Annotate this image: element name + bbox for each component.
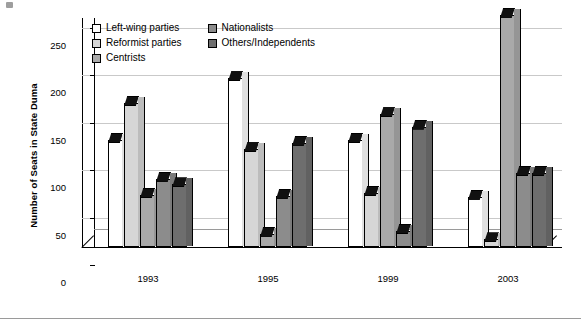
bar-top-face <box>380 107 395 117</box>
bar-top-face <box>468 190 483 200</box>
legend-item-reformist-parties: Reformist parties <box>92 37 182 49</box>
corner-artifact <box>6 2 13 8</box>
legend-label-nationalists: Nationalists <box>222 22 274 34</box>
bar-top-face <box>412 120 427 130</box>
legend-label-reformist-parties: Reformist parties <box>106 37 182 49</box>
bar-side-face <box>186 178 193 246</box>
legend-swatch-reformist-parties <box>92 39 101 48</box>
y-tick-label-0: 0 <box>36 277 66 288</box>
bar-1995-others-independents <box>292 143 307 247</box>
chart-figure: Number of Seats in State Duma 0501001502… <box>0 0 581 325</box>
bar-top-face <box>348 133 363 143</box>
y-tick-mark-50 <box>90 218 95 219</box>
bar-1999-nationalists <box>396 231 411 247</box>
bar-top-face <box>228 71 243 81</box>
bar-2003-reformist-parties <box>484 239 499 247</box>
bar-2003-centrists <box>500 15 515 247</box>
legend-swatch-nationalists <box>208 24 217 33</box>
legend-label-left-wing-parties: Left-wing parties <box>106 22 179 34</box>
x-tick-label-1993: 1993 <box>108 273 188 284</box>
legend-item-others-independents: Others/Independents <box>208 37 315 49</box>
y-tick-mark-100 <box>90 170 95 171</box>
legend-swatch-left-wing-parties <box>92 24 101 33</box>
bar-2003-others-independents <box>532 173 547 247</box>
legend: Left-wing parties Reformist parties Cent… <box>92 22 315 64</box>
bar-1999-left-wing-parties <box>348 140 363 247</box>
legend-swatch-others-independents <box>208 39 217 48</box>
bar-2003-left-wing-parties <box>468 197 483 247</box>
bar-1995-centrists <box>260 234 275 247</box>
y-tick-label-200: 200 <box>36 87 66 98</box>
bar-1995-reformist-parties <box>244 149 259 247</box>
bar-group-2003 <box>468 0 548 247</box>
bar-1995-nationalists <box>276 196 291 247</box>
bar-1993-others-independents <box>172 184 187 247</box>
bar-1993-left-wing-parties <box>108 140 123 247</box>
legend-item-left-wing-parties: Left-wing parties <box>92 22 182 34</box>
x-tick-label-1999: 1999 <box>348 273 428 284</box>
legend-item-nationalists: Nationalists <box>208 22 315 34</box>
bar-1993-nationalists <box>156 179 171 247</box>
bar-group-1999 <box>348 0 428 247</box>
y-tick-label-150: 150 <box>36 135 66 146</box>
bar-top-face <box>276 189 291 199</box>
y-tick-label-250: 250 <box>36 40 66 51</box>
y-tick-mark-200 <box>90 75 95 76</box>
legend-label-centrists: Centrists <box>106 52 145 64</box>
bar-2003-nationalists <box>516 173 531 247</box>
y-tick-label-50: 50 <box>36 230 66 241</box>
bar-top-face <box>500 8 515 18</box>
axis-floor-front <box>82 247 562 248</box>
bar-1993-centrists <box>140 195 155 247</box>
bar-top-face <box>124 96 139 106</box>
legend-item-centrists: Centrists <box>92 52 182 64</box>
bar-1993-reformist-parties <box>124 103 139 247</box>
legend-column-two: Nationalists Others/Independents <box>208 22 315 64</box>
bar-side-face <box>546 167 553 246</box>
bar-1999-reformist-parties <box>364 193 379 247</box>
bar-top-face <box>156 172 171 182</box>
bar-1999-others-independents <box>412 127 427 247</box>
legend-swatch-centrists <box>92 54 101 63</box>
bar-side-face <box>426 121 433 246</box>
x-tick-label-1995: 1995 <box>228 273 308 284</box>
legend-column-one: Left-wing parties Reformist parties Cent… <box>92 22 182 64</box>
bar-1999-centrists <box>380 114 395 247</box>
bar-side-face <box>306 137 313 246</box>
legend-label-others-independents: Others/Independents <box>222 37 315 49</box>
bottom-divider <box>0 318 581 319</box>
bar-top-face <box>292 136 307 146</box>
bar-1995-left-wing-parties <box>228 78 243 247</box>
y-tick-mark-150 <box>90 123 95 124</box>
x-tick-label-2003: 2003 <box>468 273 548 284</box>
axis-wall-left <box>82 18 83 247</box>
y-tick-mark-0 <box>90 265 95 266</box>
bar-top-face <box>108 133 123 143</box>
y-tick-label-100: 100 <box>36 182 66 193</box>
